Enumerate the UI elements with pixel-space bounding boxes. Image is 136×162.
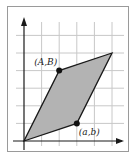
x-axis-arrow-icon: [116, 138, 124, 144]
y-axis-arrow-icon: [21, 17, 27, 26]
point-AB-label: (A,B): [34, 57, 57, 67]
parallelogram-diagram: (a,b) (A,B): [0, 0, 136, 162]
point-ab-label: (a,b): [79, 127, 100, 137]
point-ab-marker: [74, 120, 80, 126]
point-AB-marker: [56, 68, 62, 74]
